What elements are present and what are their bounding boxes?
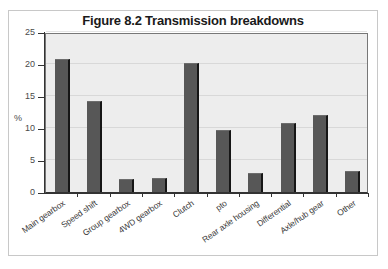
bar	[345, 171, 360, 192]
y-axis-title: %	[14, 113, 22, 123]
gridline	[46, 63, 367, 64]
bar	[216, 130, 231, 192]
x-tick-mark	[336, 193, 337, 197]
y-tick-label: 15	[0, 92, 35, 101]
x-tick-mark	[207, 193, 208, 197]
x-tick-mark	[303, 193, 304, 197]
page-title: Figure 8.2 Transmission breakdowns	[8, 13, 378, 28]
bar	[313, 115, 328, 192]
y-tick-label: 0	[0, 188, 35, 197]
x-tick-mark	[271, 193, 272, 197]
y-tick-label: 25	[0, 28, 35, 37]
bar	[119, 179, 134, 192]
y-tick-label: 10	[0, 124, 35, 133]
plot-area	[45, 33, 368, 193]
plot-inner	[46, 34, 367, 192]
x-tick-mark	[142, 193, 143, 197]
bar	[184, 63, 199, 192]
figure-root: Figure 8.2 Transmission breakdowns % 051…	[0, 0, 388, 269]
y-tick-label: 5	[0, 156, 35, 165]
bar	[87, 101, 102, 192]
gridline	[46, 31, 367, 32]
gridline	[46, 95, 367, 96]
bar	[248, 173, 263, 192]
x-tick-mark	[77, 193, 78, 197]
bar	[55, 59, 70, 192]
x-tick-mark	[368, 193, 369, 197]
x-tick-mark	[110, 193, 111, 197]
bar	[152, 178, 167, 192]
x-tick-mark	[174, 193, 175, 197]
x-tick-mark	[239, 193, 240, 197]
bar	[281, 123, 296, 192]
y-tick-label: 20	[0, 60, 35, 69]
